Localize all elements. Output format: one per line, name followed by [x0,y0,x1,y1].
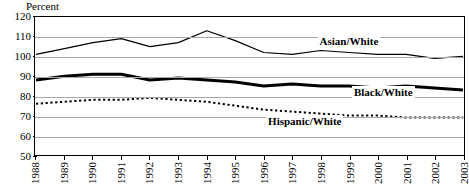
y-axis-ticks: 5060708090100110120 [0,16,31,156]
x-axis-tick-label: 2000 [373,162,384,184]
x-axis-tick-label: 1994 [202,162,213,184]
x-axis-tick-label: 2002 [430,162,441,184]
x-axis-tick-label: 1998 [316,162,327,184]
x-axis-tick-mark [464,156,465,160]
gridline [35,117,464,118]
x-axis-tick-mark [121,156,122,160]
y-axis-tick-label: 70 [3,111,31,122]
x-axis-tick-mark [435,156,436,160]
x-axis-tick-label: 2003 [459,162,469,184]
x-axis-tick-label: 1999 [345,162,356,184]
x-axis-tick-label: 1993 [173,162,184,184]
gridline [35,137,464,138]
x-axis-tick-mark [92,156,93,160]
x-axis-tick-label: 1995 [230,162,241,184]
series-line-hispanic-white [36,98,463,118]
y-axis-tick-label: 90 [3,71,31,82]
x-axis-tick-mark [235,156,236,160]
y-axis-tick-label: 80 [3,91,31,102]
x-axis-tick-mark [207,156,208,160]
x-axis-tick-mark [264,156,265,160]
x-axis-ticks: 1988198919901991199219931994199519961997… [34,156,465,196]
x-axis-tick-label: 1989 [59,162,70,184]
x-axis-tick-mark [407,156,408,160]
series-line-asian-white [36,31,463,59]
y-axis-tick-label: 120 [3,11,31,22]
x-axis-tick-mark [378,156,379,160]
x-axis-tick-label: 1991 [116,162,127,184]
x-axis-tick-mark [64,156,65,160]
x-axis-tick-label: 1988 [30,162,41,184]
x-axis-tick-mark [178,156,179,160]
x-axis-tick-mark [35,156,36,160]
x-axis-tick-mark [321,156,322,160]
y-axis-tick-label: 110 [3,31,31,42]
x-axis-tick-mark [292,156,293,160]
x-axis-tick-label: 1996 [259,162,270,184]
x-axis-tick-label: 1992 [144,162,155,184]
x-axis-tick-mark [350,156,351,160]
y-axis-tick-label: 50 [3,151,31,162]
gridline [35,57,464,58]
gridline [35,77,464,78]
y-axis-tick-label: 100 [3,51,31,62]
series-label-black-white: Black/White [352,86,415,98]
x-axis-tick-label: 1997 [287,162,298,184]
series-label-hispanic-white: Hispanic/White [266,115,343,127]
x-axis-tick-label: 1990 [87,162,98,184]
x-axis-tick-label: 2001 [402,162,413,184]
y-axis-tick-label: 60 [3,131,31,142]
series-label-asian-white: Asian/White [318,35,381,47]
x-axis-tick-mark [149,156,150,160]
gridline [35,37,464,38]
chart-container: Percent 5060708090100110120 198819891990… [0,0,469,196]
